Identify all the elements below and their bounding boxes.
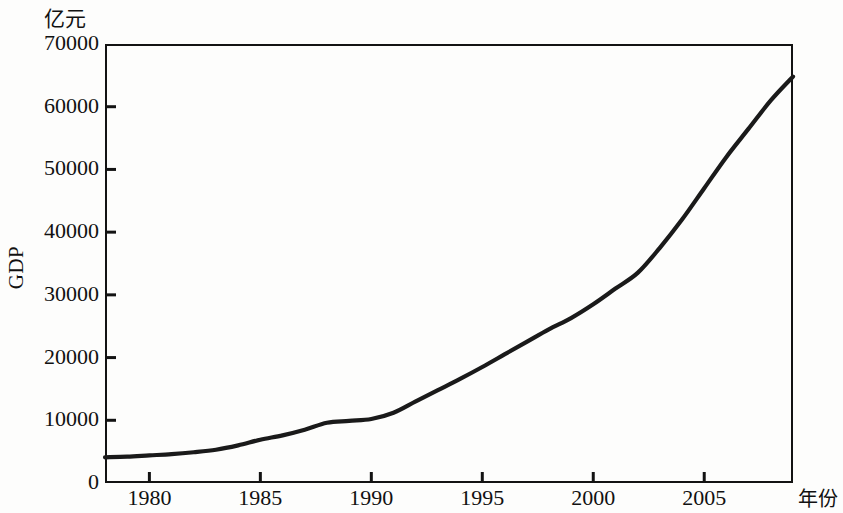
y-tick-label: 50000 [3, 157, 99, 179]
y-tick-label: 10000 [3, 408, 99, 430]
y-tick-label: 60000 [3, 95, 99, 117]
x-tick-label: 1985 [220, 486, 300, 510]
x-tick-label: 1980 [109, 486, 189, 510]
x-tick-label: 2005 [664, 486, 744, 510]
y-tick-label: 0 [3, 471, 99, 493]
y-axis-unit-label: 亿元 [44, 2, 86, 32]
x-tick-label: 1995 [442, 486, 522, 510]
y-tick-label: 70000 [3, 32, 99, 54]
tick-marks [105, 107, 704, 483]
x-axis-title: 年份 [798, 483, 838, 512]
y-tick-label: 30000 [3, 283, 99, 305]
gdp-line-chart: 亿元 GDP 年份 010000200003000040000500006000… [0, 0, 843, 513]
x-tick-label: 1990 [331, 486, 411, 510]
y-tick-label: 40000 [3, 220, 99, 242]
y-tick-label: 20000 [3, 346, 99, 368]
x-tick-label: 2000 [553, 486, 633, 510]
plot-area [105, 44, 793, 483]
gdp-curve [105, 77, 793, 458]
